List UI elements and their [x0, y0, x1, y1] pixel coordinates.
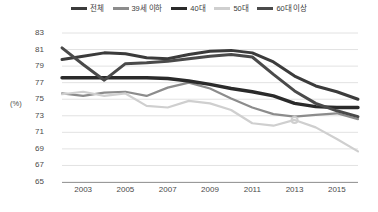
line-chart: 전체39세 이하40대50대60대 이상 8381797775737169676… [0, 0, 378, 212]
legend-label: 39세 이하 [132, 5, 163, 13]
legend-swatch-icon [214, 7, 230, 10]
y-axis-tick-label: 77 [35, 79, 44, 87]
legend-item-3[interactable]: 40대 [171, 5, 205, 13]
y-axis-tick-label: 65 [35, 178, 44, 186]
legend-label: 60대 이상 [276, 5, 307, 13]
x-axis-line [62, 182, 358, 183]
legend-item-4[interactable]: 50대 [214, 5, 248, 13]
x-axis-tick-label: 2009 [201, 186, 219, 194]
plot-area [62, 33, 358, 182]
y-axis-tick-label: 79 [35, 62, 44, 70]
y-axis-tick-label: 71 [35, 128, 44, 136]
legend-label: 40대 [190, 5, 205, 13]
y-axis-tick-label: 75 [35, 95, 44, 103]
x-axis-tick-label: 2003 [74, 186, 92, 194]
x-axis-tick-label: 2011 [244, 186, 261, 194]
x-axis-tick-label: 2013 [286, 186, 304, 194]
x-axis-tick-label: 2007 [159, 186, 177, 194]
legend-swatch-icon [113, 7, 129, 10]
legend-label: 50대 [233, 5, 248, 13]
legend-item-2[interactable]: 39세 이하 [113, 5, 163, 13]
legend-item-1[interactable]: 전체 [71, 5, 104, 13]
y-axis-tick-label: 83 [35, 29, 44, 37]
legend-swatch-icon [257, 7, 273, 10]
x-axis-tick-label: 2005 [117, 186, 135, 194]
y-axis-tick-label: 67 [35, 161, 44, 169]
legend-swatch-icon [171, 7, 187, 10]
legend-swatch-icon [71, 7, 87, 10]
y-axis: 83817977757371696765 [0, 0, 58, 212]
x-axis-tick-label: 2015 [328, 186, 346, 194]
x-axis: 2003200520072009201120132015 [0, 186, 378, 204]
y-axis-title: (%) [10, 100, 22, 108]
y-axis-tick-label: 81 [35, 46, 44, 54]
legend-label: 전체 [90, 5, 104, 13]
y-axis-tick-label: 73 [35, 112, 44, 120]
legend-item-5[interactable]: 60대 이상 [257, 5, 307, 13]
y-axis-tick-label: 69 [35, 145, 44, 153]
plot-svg [62, 33, 358, 182]
